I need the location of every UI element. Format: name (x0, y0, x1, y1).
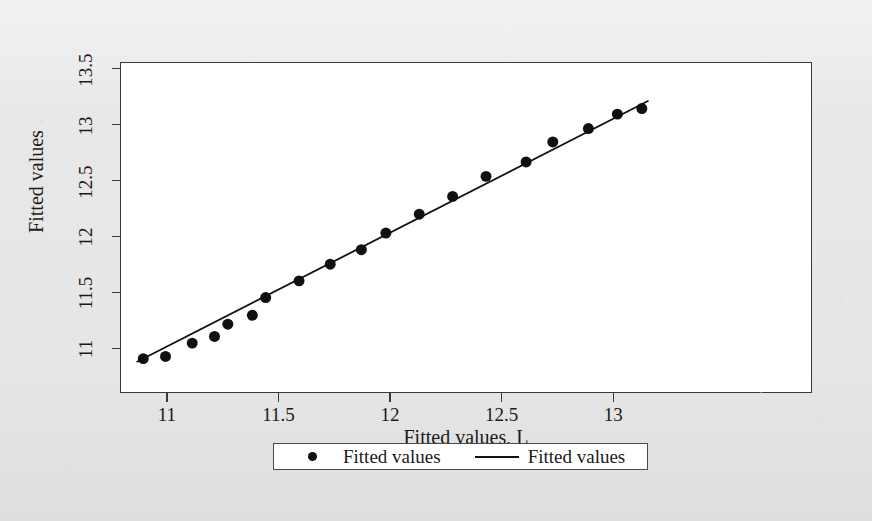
scan-speckle (760, 392, 762, 394)
x-tick-label: 12 (381, 404, 400, 426)
y-tick-label: 11 (75, 329, 97, 369)
x-tick-mark (613, 393, 614, 402)
scan-speckle (40, 120, 42, 122)
y-tick-label: 12 (75, 217, 97, 257)
y-tick-label: 13.5 (75, 50, 97, 90)
plot-area (120, 62, 812, 393)
x-tick-label: 11.5 (262, 404, 295, 426)
scan-speckle (820, 418, 823, 420)
data-point-marker (247, 310, 258, 321)
x-tick-mark (278, 393, 279, 402)
data-point-marker (187, 338, 198, 349)
legend-line-icon (475, 456, 519, 458)
x-tick-label: 11 (158, 404, 176, 426)
y-tick-label: 12.5 (75, 162, 97, 202)
scan-speckle (66, 470, 68, 472)
scan-speckle (840, 300, 842, 302)
data-point-marker (160, 351, 171, 362)
y-tick-label: 11.5 (75, 273, 97, 313)
legend-entry-marker: Fitted values (274, 444, 441, 469)
chart-legend: Fitted values Fitted values (273, 443, 648, 470)
fit-line (137, 101, 649, 362)
chart-figure: Fitted values 1111.51212.51313.5 1111.51… (0, 0, 872, 521)
data-point-marker (222, 319, 233, 330)
legend-marker-label: Fitted values (343, 446, 441, 468)
x-tick-mark (166, 393, 167, 402)
plot-canvas (121, 63, 811, 392)
legend-entry-line: Fitted values (441, 444, 626, 469)
y-axis-title: Fitted values (25, 82, 48, 282)
x-tick-mark (501, 393, 502, 402)
legend-marker-icon (290, 452, 334, 461)
y-tick-label: 13 (75, 106, 97, 146)
x-tick-mark (389, 393, 390, 402)
x-tick-label: 12.5 (485, 404, 518, 426)
scan-speckle (300, 500, 303, 502)
data-point-marker (481, 171, 492, 182)
data-point-marker (209, 331, 220, 342)
x-tick-label: 13 (604, 404, 623, 426)
data-point-marker (547, 136, 558, 147)
legend-line-label: Fitted values (528, 446, 626, 468)
